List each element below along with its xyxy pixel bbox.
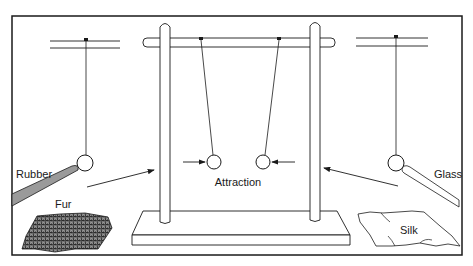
stand-base-front xyxy=(132,235,350,245)
glass-label: Glass xyxy=(434,168,463,180)
left-post xyxy=(160,24,170,224)
silk-label: Silk xyxy=(400,224,418,236)
fur-label: Fur xyxy=(55,198,72,210)
right-pendulum: Glass Silk xyxy=(324,35,463,246)
right-arrow xyxy=(324,168,398,186)
right-post xyxy=(310,23,320,222)
rubber-label: Rubber xyxy=(16,168,52,180)
left-pith-ball xyxy=(77,155,93,171)
right-pith-ball xyxy=(388,155,404,171)
crossbar xyxy=(143,38,335,47)
attraction-label: Attraction xyxy=(215,176,261,188)
electrostatics-diagram: Rubber Fur Attraction xyxy=(0,0,473,266)
left-pendulum: Rubber Fur xyxy=(12,38,154,252)
center-right-pith-ball xyxy=(256,155,270,169)
fur-patch xyxy=(22,213,112,252)
diagram-stage: Rubber Fur Attraction xyxy=(0,0,473,266)
stand: Attraction xyxy=(132,23,350,246)
left-arrow xyxy=(87,170,154,187)
center-left-pith-ball xyxy=(207,155,221,169)
